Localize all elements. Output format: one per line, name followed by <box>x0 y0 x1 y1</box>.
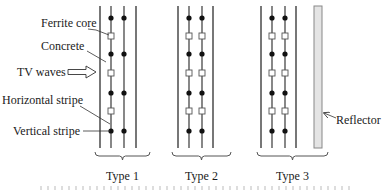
stripe-junction-dot-icon <box>108 15 113 20</box>
ferrite-core-square-icon <box>186 70 192 76</box>
stripe-junction-dot-icon <box>186 128 191 133</box>
panel-type-3: Type 3 <box>257 6 328 183</box>
stripe-junction-dot-icon <box>199 90 204 95</box>
stripe-junction-dot-icon <box>186 51 191 56</box>
leader-concrete <box>87 51 106 62</box>
ferrite-core-square-icon <box>199 33 205 39</box>
ferrite-core-square-icon <box>199 108 205 114</box>
ferrite-core-square-icon <box>269 108 275 114</box>
ferrite-core-square-icon <box>108 70 114 76</box>
label-horizontal-stripe: Horizontal stripe <box>2 93 83 107</box>
ferrite-wall-types-diagram: Type 1Type 2Type 3 Ferrite core Concrete… <box>0 0 386 190</box>
ferrite-core-square-icon <box>199 70 205 76</box>
label-reflector: Reflector <box>336 113 381 127</box>
stripe-junction-dot-icon <box>199 15 204 20</box>
stripe-junction-dot-icon <box>199 128 204 133</box>
stripe-junction-dot-icon <box>199 51 204 56</box>
panel-type-2: Type 2 <box>172 6 231 183</box>
stripe-junction-dot-icon <box>186 15 191 20</box>
leader-horizontal-stripe <box>80 106 110 124</box>
brace-icon <box>95 152 150 160</box>
tv-waves-arrow-icon <box>68 66 96 78</box>
brace-icon <box>172 152 231 160</box>
stripe-junction-dot-icon <box>282 128 287 133</box>
label-vertical-stripe: Vertical stripe <box>13 124 80 138</box>
brace-icon <box>257 152 328 160</box>
ferrite-core-square-icon <box>282 108 288 114</box>
type-label: Type 2 <box>185 169 218 183</box>
label-concrete: Concrete <box>41 39 84 53</box>
stripe-junction-dot-icon <box>121 15 126 20</box>
stripe-junction-dot-icon <box>121 90 126 95</box>
ferrite-core-square-icon <box>186 108 192 114</box>
stripe-junction-dot-icon <box>282 15 287 20</box>
stripe-junction-dot-icon <box>186 90 191 95</box>
ferrite-core-square-icon <box>282 33 288 39</box>
type-label: Type 1 <box>106 169 139 183</box>
clipped-caption-fragment <box>40 186 350 190</box>
stripe-junction-dot-icon <box>121 51 126 56</box>
label-ferrite-core: Ferrite core <box>41 16 97 30</box>
stripe-junction-dot-icon <box>269 90 274 95</box>
stripe-junction-dot-icon <box>282 90 287 95</box>
stripe-junction-dot-icon <box>282 51 287 56</box>
stripe-junction-dot-icon <box>121 128 126 133</box>
ferrite-core-square-icon <box>269 33 275 39</box>
ferrite-core-square-icon <box>186 33 192 39</box>
ferrite-core-square-icon <box>269 70 275 76</box>
stripe-junction-dot-icon <box>108 90 113 95</box>
type-label: Type 3 <box>276 169 309 183</box>
stripe-junction-dot-icon <box>269 51 274 56</box>
label-tv-waves: TV waves <box>17 65 66 79</box>
wall-panels: Type 1Type 2Type 3 <box>95 6 328 183</box>
stripe-junction-dot-icon <box>108 51 113 56</box>
ferrite-core-square-icon <box>108 108 114 114</box>
stripe-junction-dot-icon <box>269 128 274 133</box>
ferrite-core-square-icon <box>282 70 288 76</box>
stripe-junction-dot-icon <box>269 15 274 20</box>
leader-reflector-arrow-icon <box>324 113 336 118</box>
ferrite-core-square-icon <box>108 33 114 39</box>
reflector-plate <box>314 6 322 148</box>
